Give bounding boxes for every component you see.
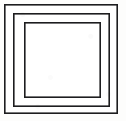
nested-squares-drawing <box>0 0 126 121</box>
inner-square <box>25 23 100 97</box>
figure-canvas <box>0 0 126 121</box>
